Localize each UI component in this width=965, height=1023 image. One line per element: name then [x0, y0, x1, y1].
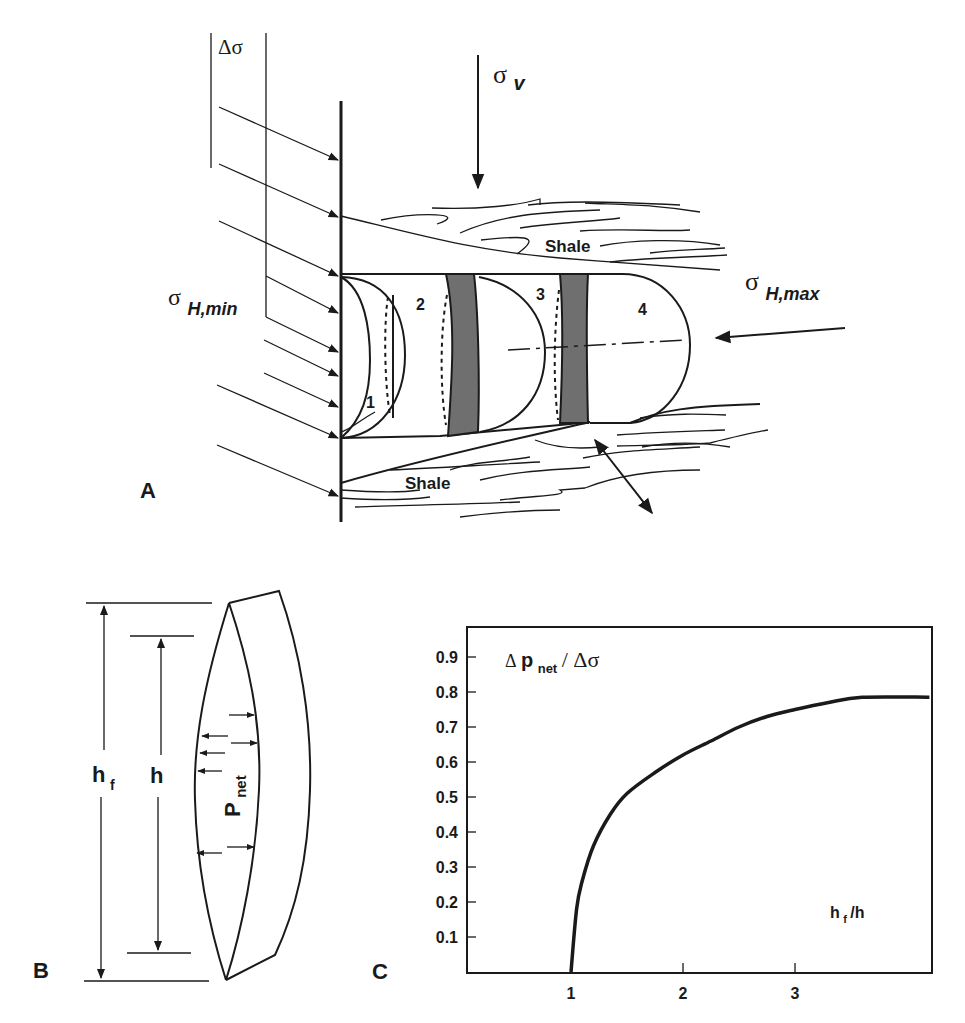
arrow-icon: [264, 340, 338, 376]
arrow-icon: [219, 164, 338, 217]
lower-shale-top: [630, 404, 760, 423]
arrow-icon: [264, 373, 338, 407]
sigma-h-max-label: σ H,max: [745, 267, 820, 304]
y-axis-ticks: 0.10.20.30.40.50.60.70.80.9: [436, 649, 476, 946]
data-curve: [571, 697, 929, 972]
stage-4-tip: [590, 274, 690, 423]
y-tick-label: 0.9: [436, 649, 458, 666]
sigma-v-label: σ v: [493, 60, 526, 94]
y-tick-label: 0.6: [436, 754, 458, 771]
panel-b-letter: B: [33, 958, 49, 983]
y-tick-label: 0.8: [436, 684, 458, 701]
arrow-icon: [266, 276, 338, 313]
x-tick-label: 3: [791, 985, 800, 1002]
arrow-icon: [219, 107, 338, 160]
h-label: h: [150, 763, 163, 788]
proppant-band-1: [446, 274, 479, 436]
stage-label-4: 4: [638, 301, 647, 318]
panel-a: Δσ σ H,min σ v: [140, 33, 845, 522]
delta-sigma-label: Δσ: [218, 35, 243, 59]
y-tick-label: 0.2: [436, 894, 458, 911]
y-tick-label: 0.3: [436, 859, 458, 876]
pnet-label: P net: [220, 775, 249, 817]
figure-canvas: Δσ σ H,min σ v: [0, 0, 965, 1023]
panel-c-letter: C: [372, 959, 388, 984]
stage-2-dotted: [442, 295, 447, 425]
sigma-h-min-label: σ H,min: [168, 284, 237, 319]
fracture-face-left: [195, 603, 229, 980]
stage-label-3: 3: [536, 286, 545, 303]
y-tick-label: 0.5: [436, 789, 458, 806]
lower-shale-texture: [341, 412, 768, 517]
arrow-icon: [219, 221, 338, 276]
arrow-icon: [217, 445, 338, 496]
panel-b: h f h P net B: [33, 591, 310, 983]
proppant-band-2: [560, 274, 588, 423]
stage-3-dotted: [555, 290, 559, 420]
shale-lower-label: Shale: [405, 474, 450, 493]
x-axis-ticks: 123: [567, 963, 800, 1002]
x-tick-label: 1: [567, 985, 576, 1002]
stage-1-dotted: [385, 297, 390, 415]
stage-label-2: 2: [416, 296, 425, 313]
x-axis-label: h f /h: [830, 904, 865, 926]
hf-label: h f: [92, 762, 115, 793]
stage-label-1: 1: [366, 394, 375, 411]
sigma-h-max-arrow-icon: [716, 328, 845, 338]
x-tick-label: 2: [679, 985, 688, 1002]
double-arrow-icon: [595, 440, 652, 513]
shale-upper-label: Shale: [545, 237, 590, 256]
panel-a-letter: A: [140, 478, 156, 503]
upper-shale-boundary: [341, 216, 720, 270]
stage-1-inner: [341, 277, 370, 438]
y-tick-label: 0.1: [436, 929, 458, 946]
panel-c-chart: 0.10.20.30.40.50.60.70.80.9 123 Δ p net …: [372, 627, 932, 1002]
y-axis-label: Δ p net / Δσ: [505, 647, 599, 676]
y-tick-label: 0.4: [436, 824, 458, 841]
fracture-axis-line: [508, 340, 686, 350]
chart-frame: [467, 627, 932, 973]
arrow-icon: [217, 385, 338, 438]
y-tick-label: 0.7: [436, 719, 458, 736]
